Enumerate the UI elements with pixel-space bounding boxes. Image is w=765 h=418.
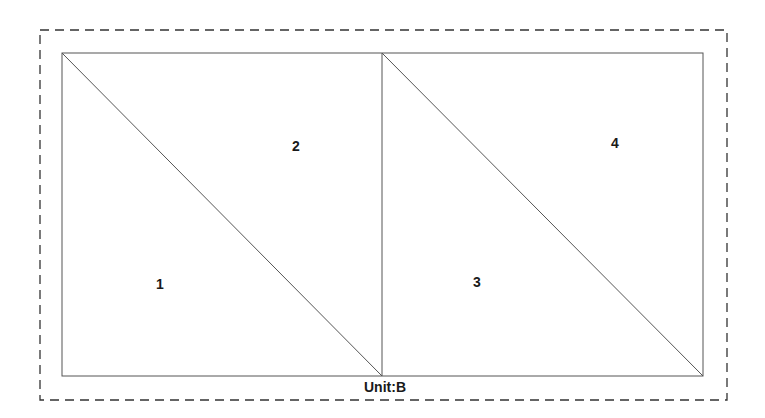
unit-diagram: 1 2 3 4 Unit:B [0,0,765,418]
right-diagonal [382,53,703,376]
unit-boundary-dashed [40,30,727,400]
region-label-2: 2 [292,138,300,154]
region-label-1: 1 [156,276,164,292]
left-diagonal [62,53,382,376]
region-label-3: 3 [473,274,481,290]
region-label-4: 4 [611,135,619,151]
unit-label: Unit:B [364,379,406,395]
